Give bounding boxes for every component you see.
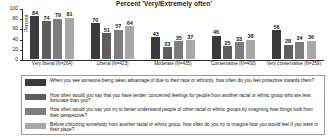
legend-item-label: Before criticizing somebody from another… <box>50 122 322 133</box>
legend-item[interactable]: How often would you say you try to bette… <box>22 106 324 121</box>
bar-group: 56283436Very conservative (N=259) <box>264 8 324 59</box>
y-axis-tick-label: 0 <box>15 56 18 62</box>
bar-value-label: 36 <box>304 34 318 40</box>
x-axis-group-label: Conservative (N=400) <box>203 61 263 66</box>
chart-page: Percent 'Very/Extremely often' Percent 0… <box>0 0 328 137</box>
y-axis-tick-label: 100 <box>10 5 18 11</box>
bar-item[interactable]: 84 <box>30 8 39 59</box>
bar[interactable] <box>307 41 316 59</box>
x-axis-group-label: Very liberal (N=264) <box>22 61 82 66</box>
legend-item-label: How often would you say you try to bette… <box>50 107 322 118</box>
bar[interactable] <box>272 30 281 59</box>
bar-value-label: 81 <box>62 11 76 17</box>
bar[interactable] <box>91 23 100 59</box>
bar-value-label: 43 <box>149 31 163 37</box>
legend-item[interactable]: Before criticizing somebody from another… <box>22 121 324 136</box>
bar-value-label: 23 <box>160 41 174 47</box>
x-axis-group-label: Moderate (N=435) <box>143 61 203 66</box>
bar-value-label: 38 <box>244 33 258 39</box>
bar[interactable] <box>151 37 160 59</box>
y-axis-tick-label: 60 <box>12 25 18 31</box>
bar-item[interactable]: 64 <box>125 8 134 59</box>
bar-item[interactable]: 34 <box>295 8 304 59</box>
bar[interactable] <box>235 42 244 59</box>
bar[interactable] <box>125 26 134 59</box>
bar-item[interactable]: 37 <box>186 8 195 59</box>
bar-value-label: 56 <box>270 24 284 30</box>
bar-item[interactable]: 70 <box>91 8 100 59</box>
bar[interactable] <box>42 21 51 59</box>
bar[interactable] <box>174 41 183 59</box>
legend-item-label: When you see someone being taken advanta… <box>50 78 322 84</box>
bar[interactable] <box>114 30 123 59</box>
bar[interactable] <box>102 33 111 59</box>
bar-item[interactable]: 33 <box>235 8 244 59</box>
chart-title: Percent 'Very/Extremely often' <box>0 0 328 7</box>
bar-item[interactable]: 81 <box>65 8 74 59</box>
bar[interactable] <box>284 45 293 59</box>
bar[interactable] <box>30 16 39 59</box>
bar-item[interactable]: 51 <box>102 8 111 59</box>
chart-legend: When you see someone being taken advanta… <box>21 75 325 135</box>
legend-color-swatch <box>25 123 46 130</box>
bar-group: 46253338Conservative (N=400) <box>203 8 263 59</box>
bar-value-label: 70 <box>88 17 102 23</box>
plot-area: Percent 020406080100 84747981Very libera… <box>22 9 324 60</box>
bar-item[interactable]: 74 <box>42 8 51 59</box>
legend-item-label: How often would you say that you have te… <box>50 93 322 104</box>
bar-group: 43233537Moderate (N=435) <box>143 8 203 59</box>
bar-group: 70515764Liberal (N=423) <box>82 8 142 59</box>
bar[interactable] <box>246 40 255 59</box>
bar-item[interactable]: 43 <box>151 8 160 59</box>
bar-value-label: 37 <box>183 34 197 40</box>
bar-value-label: 46 <box>209 29 223 35</box>
legend-color-swatch <box>25 108 46 115</box>
bar[interactable] <box>53 19 62 59</box>
bar[interactable] <box>223 46 232 59</box>
bar-group: 84747981Very liberal (N=264) <box>22 8 82 59</box>
bar-item[interactable]: 46 <box>212 8 221 59</box>
bar-item[interactable]: 28 <box>284 8 293 59</box>
bar[interactable] <box>186 40 195 59</box>
bar-value-label: 64 <box>123 20 137 26</box>
bar-item[interactable]: 79 <box>53 8 62 59</box>
bar-item[interactable]: 35 <box>174 8 183 59</box>
legend-item[interactable]: How often would you say that you have te… <box>22 92 324 107</box>
y-axis-tick-label: 20 <box>12 46 18 52</box>
bar-item[interactable]: 23 <box>163 8 172 59</box>
y-axis-tick-label: 80 <box>12 15 18 21</box>
x-axis-group-label: Liberal (N=423) <box>82 61 142 66</box>
bar[interactable] <box>65 18 74 59</box>
bar[interactable] <box>163 47 172 59</box>
bar-item[interactable]: 25 <box>223 8 232 59</box>
bar-item[interactable]: 57 <box>114 8 123 59</box>
bar-item[interactable]: 36 <box>307 8 316 59</box>
bar-item[interactable]: 38 <box>246 8 255 59</box>
bar[interactable] <box>295 42 304 59</box>
legend-color-swatch <box>25 94 46 101</box>
y-axis-tick-label: 40 <box>12 36 18 42</box>
legend-color-swatch <box>25 79 46 86</box>
legend-item[interactable]: When you see someone being taken advanta… <box>22 77 324 92</box>
x-axis-group-label: Very conservative (N=259) <box>264 61 324 66</box>
bar-item[interactable]: 56 <box>272 8 281 59</box>
bar[interactable] <box>212 36 221 59</box>
